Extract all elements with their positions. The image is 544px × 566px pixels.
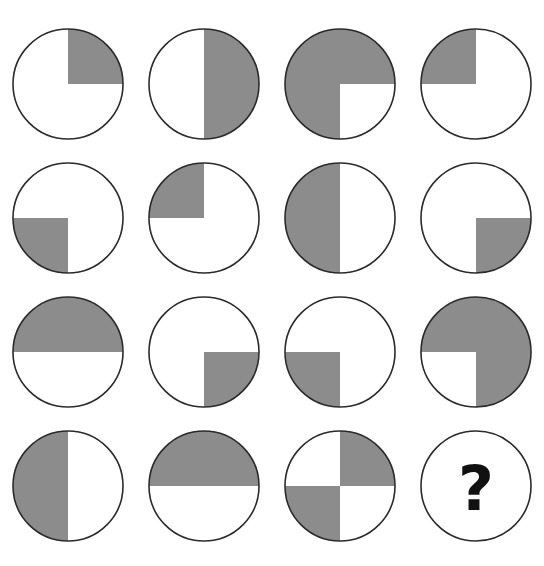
matrix-cell-10 — [136, 285, 272, 419]
answer-cell-question[interactable]: ? — [408, 419, 544, 553]
pie-circle: ? — [418, 428, 534, 544]
pie-circle — [418, 26, 534, 142]
pie-circle — [282, 26, 398, 142]
matrix-cell-7 — [272, 151, 408, 285]
pie-circle — [282, 428, 398, 544]
pie-circle — [282, 294, 398, 410]
matrix-cell-15 — [272, 419, 408, 553]
matrix-cell-2 — [136, 17, 272, 151]
pie-circle — [146, 294, 262, 410]
matrix-cell-5 — [0, 151, 136, 285]
matrix-cell-6 — [136, 151, 272, 285]
matrix-cell-13 — [0, 419, 136, 553]
matrix-cell-1 — [0, 17, 136, 151]
pie-circle — [146, 160, 262, 276]
pie-circle — [418, 294, 534, 410]
matrix-cell-9 — [0, 285, 136, 419]
matrix-cell-3 — [272, 17, 408, 151]
matrix-cell-4 — [408, 17, 544, 151]
matrix-cell-8 — [408, 151, 544, 285]
matrix-cell-12 — [408, 285, 544, 419]
pie-circle — [146, 428, 262, 544]
question-mark-label: ? — [458, 452, 494, 525]
top-edge-artifact — [0, 0, 544, 9]
pie-circle — [10, 26, 126, 142]
pie-circle — [10, 428, 126, 544]
puzzle-grid: ? — [0, 0, 544, 566]
pie-circle — [146, 26, 262, 142]
pie-circle — [418, 160, 534, 276]
matrix-cell-11 — [272, 285, 408, 419]
pie-circle — [10, 294, 126, 410]
pie-circle — [282, 160, 398, 276]
pie-circle — [10, 160, 126, 276]
matrix-cell-14 — [136, 419, 272, 553]
